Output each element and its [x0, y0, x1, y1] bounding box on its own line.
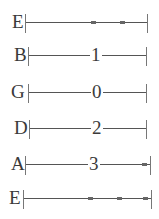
string-label: B [14, 43, 27, 67]
muted-mark [91, 21, 96, 24]
nut-bar [28, 84, 29, 103]
string-line [29, 55, 147, 56]
string-label: G [11, 80, 25, 104]
end-bar [146, 47, 147, 66]
end-bar [146, 120, 147, 139]
nut-bar [25, 156, 26, 175]
end-bar [151, 190, 152, 209]
end-bar [146, 84, 147, 103]
fret-number: 2 [91, 116, 103, 139]
string-row-g: G 0 [11, 80, 147, 104]
fret-number: 0 [91, 80, 103, 103]
fret-number: 3 [88, 152, 100, 175]
muted-mark [143, 197, 148, 200]
end-bar [147, 14, 148, 33]
muted-mark [120, 21, 125, 24]
string-label: E [12, 10, 24, 34]
string-label: A [11, 152, 25, 176]
string-row-low-e: E [9, 186, 153, 210]
string-line [29, 92, 147, 93]
nut-bar [28, 47, 29, 66]
muted-mark [142, 163, 147, 166]
string-line [26, 22, 147, 23]
muted-mark [88, 197, 93, 200]
muted-mark [117, 197, 122, 200]
string-row-d: D 2 [14, 116, 148, 140]
fret-number: 1 [90, 43, 102, 66]
string-label: D [14, 116, 28, 140]
nut-bar [29, 120, 30, 139]
nut-bar [23, 190, 24, 209]
string-label: E [9, 186, 21, 210]
end-bar [150, 156, 151, 175]
string-row-a: A 3 [11, 152, 151, 176]
nut-bar [25, 14, 26, 33]
string-row-high-e: E [12, 10, 148, 34]
string-line [30, 128, 147, 129]
string-row-b: B 1 [14, 43, 148, 67]
